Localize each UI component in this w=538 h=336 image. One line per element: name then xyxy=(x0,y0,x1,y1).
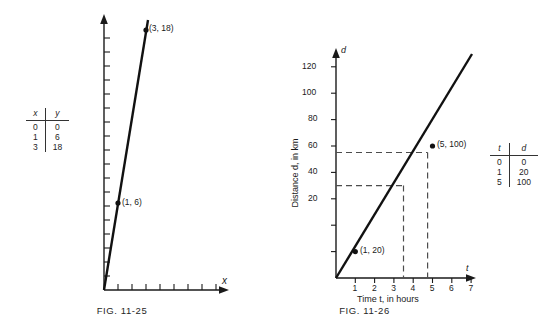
guide-lines-11-26 xyxy=(336,153,428,279)
table-row: 0 0 xyxy=(26,122,69,132)
table-row: 0 0 xyxy=(490,157,538,167)
figure-11-25: x (3, 18) (1, 6) x y 0 0 1 6 3 18 FIG. 1… xyxy=(0,0,240,336)
point-label-5-100: (5, 100) xyxy=(437,139,466,149)
data-table-11-25: x y 0 0 1 6 3 18 xyxy=(26,108,69,152)
x-axis-11-25 xyxy=(104,284,229,294)
cell-t: 1 xyxy=(490,167,509,177)
cell-y: 0 xyxy=(45,122,69,132)
table-row: 1 20 xyxy=(490,167,538,177)
cell-x: 3 xyxy=(26,142,45,152)
y-tick-label-40: 40 xyxy=(308,166,317,176)
table-header-d: d xyxy=(509,143,538,156)
cell-x: 0 xyxy=(26,122,45,132)
y-tick-label-20: 20 xyxy=(308,193,317,203)
cell-x: 1 xyxy=(26,132,45,142)
cell-d: 100 xyxy=(509,177,538,187)
table-row: 3 18 xyxy=(26,142,69,152)
table-row: 5 100 xyxy=(490,177,538,187)
y-axis-title-11-26: Distance d, in km xyxy=(290,115,300,231)
x-tick-label-1: 1 xyxy=(353,283,358,293)
x-tick-label-6: 6 xyxy=(449,283,454,293)
figure-11-26: 120 100 80 60 40 20 1 2 3 4 5 6 7 d t Ti… xyxy=(240,0,481,336)
y-axis-11-25 xyxy=(100,14,110,290)
table-header-x: x xyxy=(26,108,45,121)
x-axis-symbol-t: t xyxy=(466,263,469,273)
data-point-3-18 xyxy=(143,27,148,32)
x-tick-label-7: 7 xyxy=(468,283,473,293)
data-table-11-26: t d 0 0 1 20 5 100 xyxy=(490,143,538,187)
x-axis-title-11-26: Time t, in hours xyxy=(357,294,419,304)
y-tick-label-80: 80 xyxy=(308,113,317,123)
y-axis-symbol-d: d xyxy=(341,45,346,55)
x-tick-label-4: 4 xyxy=(411,283,416,293)
cell-t: 0 xyxy=(490,157,509,167)
x-tick-label-5: 5 xyxy=(430,283,435,293)
data-point-5-100 xyxy=(430,143,435,148)
table-row: 1 6 xyxy=(26,132,69,142)
figure-caption-11-26: FIG. 11-26 xyxy=(244,305,485,316)
graph-11-26 xyxy=(240,0,481,305)
table-header-y: y xyxy=(45,108,69,121)
y-tick-label-60: 60 xyxy=(308,140,317,150)
data-point-1-20 xyxy=(353,249,358,254)
cell-d: 0 xyxy=(509,157,538,167)
plot-line-11-26 xyxy=(336,54,472,278)
table-header-row: x y xyxy=(26,108,69,121)
x-tick-label-3: 3 xyxy=(391,283,396,293)
y-axis-11-26 xyxy=(331,48,340,278)
table-header-t: t xyxy=(490,143,509,156)
graph-11-25 xyxy=(0,0,240,305)
data-point-1-6 xyxy=(115,200,120,205)
cell-y: 18 xyxy=(45,142,69,152)
table-header-row: t d xyxy=(490,143,538,156)
cell-d: 20 xyxy=(509,167,538,177)
point-label-3-18: (3, 18) xyxy=(149,23,174,33)
x-tick-label-2: 2 xyxy=(372,283,377,293)
x-axis-label-11-25: x xyxy=(222,275,227,286)
plot-line-11-25 xyxy=(104,20,148,290)
y-tick-label-100: 100 xyxy=(302,87,316,97)
cell-y: 6 xyxy=(45,132,69,142)
cell-t: 5 xyxy=(490,177,509,187)
figure-caption-11-25: FIG. 11-25 xyxy=(2,305,242,316)
y-tick-label-120: 120 xyxy=(302,61,316,71)
point-label-1-20: (1, 20) xyxy=(360,245,385,255)
point-label-1-6: (1, 6) xyxy=(122,197,142,207)
x-axis-11-26 xyxy=(336,274,476,283)
